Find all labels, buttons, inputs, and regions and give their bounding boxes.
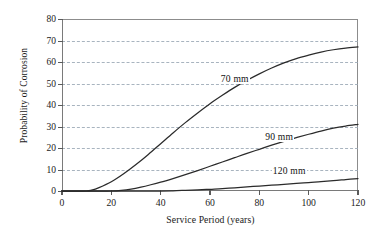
plot-area: 01020304050607080 020406080100120 70 mm9… xyxy=(62,19,358,191)
y-tick-label: 80 xyxy=(47,14,57,24)
x-tick-label: 40 xyxy=(156,197,166,208)
y-tick-label: 60 xyxy=(47,57,57,67)
y-tick-label: 20 xyxy=(47,143,57,153)
series-label-90-mm: 90 mm xyxy=(264,131,294,142)
x-tick-label: 100 xyxy=(301,197,316,208)
series-curves xyxy=(62,19,358,191)
x-tick-label: 20 xyxy=(106,197,116,208)
y-tick-label: 0 xyxy=(51,186,56,196)
series-label-120-mm: 120 mm xyxy=(272,165,307,176)
y-axis-title: Probability of Corrosion xyxy=(14,0,34,191)
x-tick-label: 60 xyxy=(205,197,215,208)
x-tick-label: 80 xyxy=(254,197,264,208)
x-axis-title: Service Period (years) xyxy=(62,214,359,225)
corrosion-probability-chart: Probability of Corrosion 010203040506070… xyxy=(0,0,382,238)
y-tick-label: 50 xyxy=(47,79,57,89)
x-tick-label: 120 xyxy=(351,197,366,208)
series-label-70-mm: 70 mm xyxy=(220,73,250,84)
y-tick-label: 40 xyxy=(47,100,57,110)
y-tick-label: 70 xyxy=(47,36,57,46)
series-curve-70-mm xyxy=(62,47,358,191)
series-curve-90-mm xyxy=(62,124,358,191)
x-tick-label: 0 xyxy=(60,197,65,208)
y-tick-label: 30 xyxy=(47,122,57,132)
y-tick-label: 10 xyxy=(47,165,57,175)
